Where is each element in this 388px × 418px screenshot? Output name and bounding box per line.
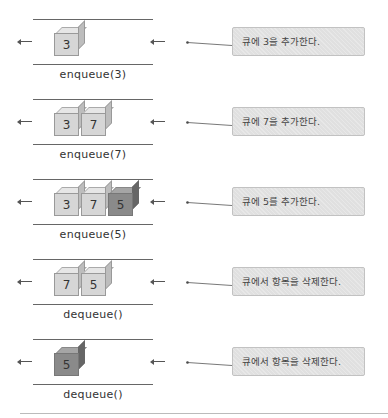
queue-item-cube: 5 <box>81 273 106 296</box>
operation-label: enqueue(5) <box>33 228 153 241</box>
queue-bottom-rail <box>33 64 153 65</box>
explanation-note: 큐에 5를 추가한다. <box>232 187 365 216</box>
queue-top-rail <box>33 259 153 260</box>
queue-items: 5 <box>54 347 81 377</box>
queue-bottom-rail <box>33 384 153 385</box>
cube-side-face <box>105 260 112 290</box>
queue-item-cube: 3 <box>54 33 79 56</box>
callout-connector-icon <box>186 121 232 129</box>
queue-bottom-rail <box>33 224 153 225</box>
cube-value: 7 <box>54 273 79 296</box>
cube-value: 3 <box>54 113 79 136</box>
operation-label: enqueue(3) <box>33 68 153 81</box>
queue-top-rail <box>33 179 153 180</box>
queue-step: 5 dequeue() 큐에서 항목을 삭제한다. <box>0 339 388 418</box>
cube-side-face <box>105 100 112 130</box>
cube-value: 3 <box>54 193 79 216</box>
callout-connector-icon <box>186 41 232 49</box>
queue-item-cube: 7 <box>81 113 106 136</box>
enqueue-arrow-icon <box>153 41 165 42</box>
callout-connector-icon <box>186 201 232 209</box>
callout-connector-icon <box>186 281 232 289</box>
queue-item-cube: 5 <box>108 193 133 216</box>
queue-top-rail <box>33 19 153 20</box>
dequeue-arrow-icon <box>20 361 32 362</box>
operation-label: dequeue() <box>33 388 153 401</box>
explanation-note: 큐에서 항목을 삭제한다. <box>232 267 365 296</box>
cube-value: 5 <box>108 193 133 216</box>
dequeue-arrow-icon <box>20 121 32 122</box>
explanation-note: 큐에 3을 추가한다. <box>232 27 365 56</box>
queue-bottom-rail <box>33 144 153 145</box>
queue-items: 75 <box>54 267 108 297</box>
cube-side-face <box>78 340 85 370</box>
cube-side-face <box>78 20 85 50</box>
queue-top-rail <box>33 99 153 100</box>
queue-items: 37 <box>54 107 108 137</box>
bottom-divider <box>20 413 388 414</box>
cube-value: 7 <box>81 193 106 216</box>
queue-step: 37 enqueue(7) 큐에 7을 추가한다. <box>0 99 388 179</box>
enqueue-arrow-icon <box>153 361 165 362</box>
operation-label: dequeue() <box>33 308 153 321</box>
dequeue-arrow-icon <box>20 201 32 202</box>
queue-item-cube: 7 <box>81 193 106 216</box>
queue-item-cube: 5 <box>54 353 79 376</box>
queue-item-cube: 3 <box>54 193 79 216</box>
cube-value: 5 <box>54 353 79 376</box>
cube-value: 7 <box>81 113 106 136</box>
queue-top-rail <box>33 339 153 340</box>
enqueue-arrow-icon <box>153 121 165 122</box>
dequeue-arrow-icon <box>20 281 32 282</box>
queue-step: 75 dequeue() 큐에서 항목을 삭제한다. <box>0 259 388 339</box>
queue-bottom-rail <box>33 304 153 305</box>
callout-connector-icon <box>186 361 232 369</box>
dequeue-arrow-icon <box>20 41 32 42</box>
cube-value: 5 <box>81 273 106 296</box>
queue-step: 3 enqueue(3) 큐에 3을 추가한다. <box>0 19 388 99</box>
queue-items: 375 <box>54 187 135 217</box>
operation-label: enqueue(7) <box>33 148 153 161</box>
queue-item-cube: 3 <box>54 113 79 136</box>
explanation-note: 큐에 7을 추가한다. <box>232 107 365 136</box>
queue-item-cube: 7 <box>54 273 79 296</box>
cube-side-face <box>132 180 139 210</box>
cube-value: 3 <box>54 33 79 56</box>
explanation-note: 큐에서 항목을 삭제한다. <box>232 347 365 376</box>
enqueue-arrow-icon <box>153 281 165 282</box>
queue-items: 3 <box>54 27 81 57</box>
enqueue-arrow-icon <box>153 201 165 202</box>
queue-step: 375 enqueue(5) 큐에 5를 추가한다. <box>0 179 388 259</box>
